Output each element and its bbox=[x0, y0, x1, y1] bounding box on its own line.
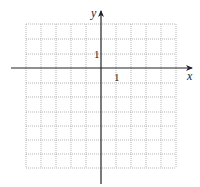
x-tick-label: 1 bbox=[114, 71, 120, 83]
x-axis-label: x bbox=[186, 69, 193, 83]
y-axis-label: y bbox=[90, 6, 97, 20]
coordinate-plane: y x 1 1 bbox=[0, 0, 200, 187]
y-tick-label: 1 bbox=[94, 48, 100, 60]
